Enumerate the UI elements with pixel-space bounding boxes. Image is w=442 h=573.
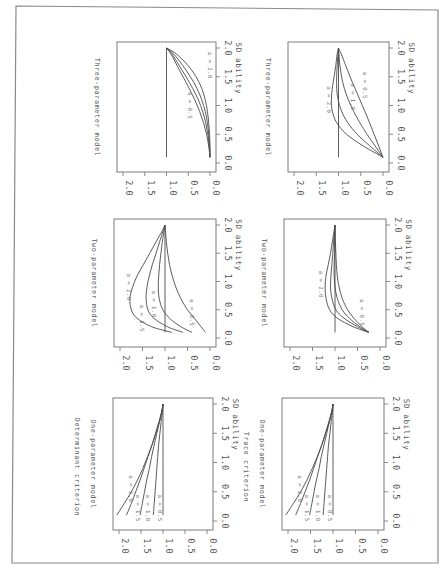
x-tick-label: 0.5 bbox=[220, 484, 230, 499]
scanned-figure: 0.00.51.01.52.0SD ability0.00.51.01.52.0… bbox=[0, 0, 442, 573]
panel-title: One-parameter model bbox=[89, 419, 97, 508]
x-tick-label: 0.0 bbox=[396, 155, 406, 170]
x-tick-label: 2.0 bbox=[393, 217, 403, 232]
x-axis-label: SD ability bbox=[407, 43, 416, 95]
series-label: a = 0.5 bbox=[362, 72, 368, 99]
panels: 0.00.51.01.52.0SD ability0.00.51.01.52.0… bbox=[73, 40, 416, 553]
panel-det-three: 0.00.51.01.52.0SD ability0.00.51.01.52.0… bbox=[93, 40, 243, 195]
y-tick-label: 1.5 bbox=[142, 538, 152, 553]
x-axis-label: SD ability bbox=[402, 399, 411, 451]
panel-trace-two: 0.00.51.01.52.0SD ability0.00.51.01.52.0… bbox=[260, 217, 413, 370]
x-tick-label: 2.0 bbox=[220, 396, 230, 411]
panel-det-two: 0.00.51.01.52.0SD ability0.00.51.01.52.0… bbox=[90, 217, 243, 370]
y-tick-label: 0.0 bbox=[381, 355, 391, 370]
panel-trace-three: 0.00.51.01.52.0SD ability0.00.51.01.52.0… bbox=[264, 40, 416, 195]
x-tick-label: 1.5 bbox=[223, 69, 233, 84]
x-tick-label: 1.0 bbox=[396, 98, 406, 113]
series-label: a = 2.0 bbox=[126, 274, 132, 301]
y-tick-label: 2.0 bbox=[289, 538, 299, 553]
panel-title: One-parameter model bbox=[258, 419, 266, 508]
x-tick-label: 1.0 bbox=[223, 274, 233, 289]
series-label: a = 1.0 bbox=[315, 495, 321, 522]
series-curve bbox=[165, 225, 206, 332]
x-axis-label: SD ability bbox=[231, 399, 240, 451]
y-tick-label: 1.0 bbox=[166, 355, 176, 370]
y-tick-label: 1.0 bbox=[168, 180, 178, 195]
series-label: a = 0.5 bbox=[359, 299, 365, 326]
x-tick-label: 0.5 bbox=[393, 302, 403, 317]
panel-trace-one: 0.00.51.01.52.0SD ability0.00.51.01.52.0… bbox=[242, 396, 411, 553]
y-tick-label: 2.0 bbox=[121, 355, 131, 370]
panel-title: Three-parameter model bbox=[93, 58, 101, 157]
series-label: a = 1.0 bbox=[145, 495, 151, 522]
x-tick-label: 1.5 bbox=[223, 246, 233, 261]
y-tick-label: 1.0 bbox=[164, 538, 174, 553]
series-label: a = 1.5 bbox=[139, 305, 145, 332]
x-tick-label: 2.0 bbox=[391, 396, 401, 411]
y-tick-label: 2.0 bbox=[295, 180, 305, 195]
x-tick-label: 0.0 bbox=[393, 330, 403, 345]
x-tick-label: 0.0 bbox=[220, 513, 230, 528]
criterion-heading: Determinant criterion bbox=[73, 418, 81, 517]
x-tick-label: 1.5 bbox=[391, 426, 401, 441]
y-tick-label: 2.0 bbox=[120, 538, 130, 553]
x-tick-label: 2.0 bbox=[223, 40, 233, 55]
y-tick-label: 1.5 bbox=[312, 538, 322, 553]
x-axis-label: SD ability bbox=[234, 43, 243, 95]
series-label: a = 0.5 bbox=[189, 299, 195, 326]
y-tick-label: 0.0 bbox=[211, 355, 221, 370]
x-tick-label: 1.0 bbox=[393, 274, 403, 289]
y-tick-label: 0.5 bbox=[362, 180, 372, 195]
y-tick-label: 0.5 bbox=[359, 355, 369, 370]
x-axis-label: SD ability bbox=[404, 219, 413, 271]
y-tick-label: 0.0 bbox=[379, 538, 389, 553]
x-tick-label: 1.5 bbox=[220, 426, 230, 441]
x-tick-label: 0.5 bbox=[391, 484, 401, 499]
y-tick-label: 1.0 bbox=[340, 180, 350, 195]
panel-title: Three-parameter model bbox=[264, 58, 272, 157]
x-tick-label: 1.0 bbox=[391, 455, 401, 470]
criterion-heading: Trace criterion bbox=[242, 432, 250, 502]
x-tick-label: 1.0 bbox=[220, 455, 230, 470]
y-tick-label: 1.0 bbox=[334, 538, 344, 553]
x-tick-label: 0.0 bbox=[223, 330, 233, 345]
y-tick-label: 0.0 bbox=[384, 180, 394, 195]
y-tick-label: 0.0 bbox=[211, 180, 221, 195]
series-curve bbox=[146, 225, 183, 332]
panel-title: Two-parameter model bbox=[90, 238, 98, 327]
x-tick-label: 0.5 bbox=[396, 127, 406, 142]
series-label: a = 2.0 bbox=[326, 86, 332, 113]
x-tick-label: 1.5 bbox=[393, 246, 403, 261]
y-tick-label: 2.0 bbox=[124, 180, 134, 195]
y-tick-label: 0.5 bbox=[357, 538, 367, 553]
y-tick-label: 0.5 bbox=[189, 355, 199, 370]
x-tick-label: 1.5 bbox=[396, 69, 406, 84]
x-tick-label: 0.0 bbox=[223, 155, 233, 170]
y-tick-label: 0.5 bbox=[189, 180, 199, 195]
panel-det-one: 0.00.51.01.52.0SD ability0.00.51.01.52.0… bbox=[73, 396, 240, 553]
y-tick-label: 2.0 bbox=[291, 355, 301, 370]
x-tick-label: 1.0 bbox=[223, 98, 233, 113]
series-label: a = 2.0 bbox=[318, 271, 324, 298]
series-curve bbox=[339, 48, 384, 157]
x-tick-label: 0.0 bbox=[391, 513, 401, 528]
series-label: a = 0.5 bbox=[327, 495, 333, 522]
series-label: a = 2.0 bbox=[207, 52, 213, 79]
x-tick-label: 0.5 bbox=[223, 127, 233, 142]
series-label: a = 1.0 bbox=[350, 83, 356, 110]
x-tick-label: 2.0 bbox=[223, 217, 233, 232]
series-label: a = 1.5 bbox=[304, 495, 310, 522]
series-label: a = 0.5 bbox=[157, 495, 163, 522]
x-tick-label: 2.0 bbox=[396, 40, 406, 55]
series-label: a = 0.5 bbox=[187, 92, 193, 119]
series-label: a = 1.5 bbox=[135, 495, 141, 522]
series-curve bbox=[337, 48, 383, 157]
y-tick-label: 1.5 bbox=[146, 180, 156, 195]
panel-title: Two-parameter model bbox=[260, 238, 268, 327]
series-label: a = 1.0 bbox=[151, 291, 157, 318]
x-axis-label: SD ability bbox=[234, 219, 243, 271]
x-tick-label: 0.5 bbox=[223, 302, 233, 317]
y-tick-label: 0.5 bbox=[186, 538, 196, 553]
y-tick-label: 1.0 bbox=[336, 355, 346, 370]
y-tick-label: 1.5 bbox=[317, 180, 327, 195]
